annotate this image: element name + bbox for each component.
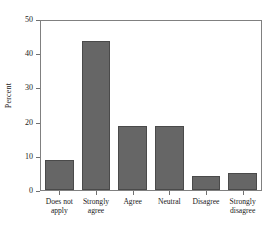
bar bbox=[192, 176, 221, 190]
bar bbox=[45, 160, 74, 190]
bar-slot bbox=[155, 21, 184, 190]
bar-slot bbox=[192, 21, 221, 190]
x-tick-label-line: disagree bbox=[218, 206, 267, 215]
bar-series bbox=[41, 21, 261, 190]
y-tick-label: 0 bbox=[29, 186, 33, 195]
y-tick-label: 30 bbox=[25, 83, 33, 92]
x-axis-ticks-and-labels: Does notapplyStronglyagreeAgreeNeutralDi… bbox=[41, 191, 261, 225]
bar bbox=[82, 41, 111, 190]
x-tick-mark bbox=[59, 191, 60, 195]
bar bbox=[155, 126, 184, 190]
bar-slot bbox=[228, 21, 257, 190]
bar bbox=[118, 126, 147, 190]
bar-slot bbox=[118, 21, 147, 190]
x-tick-mark bbox=[133, 191, 134, 195]
bar-slot bbox=[45, 21, 74, 190]
y-tick-label: 10 bbox=[25, 152, 33, 161]
y-axis-title-text: Percent bbox=[5, 83, 14, 108]
x-tick-mark bbox=[243, 191, 244, 195]
bar bbox=[228, 173, 257, 190]
y-axis-title: Percent bbox=[2, 0, 16, 191]
x-tick-mark bbox=[169, 191, 170, 195]
x-tick-mark bbox=[96, 191, 97, 195]
y-tick-label: 20 bbox=[25, 118, 33, 127]
bar-chart-figure: Percent 01020304050 Does notapplyStrongl… bbox=[0, 0, 276, 225]
y-tick-label: 50 bbox=[25, 15, 33, 24]
x-tick-label-line: Strongly bbox=[218, 197, 267, 206]
x-tick-label: Stronglydisagree bbox=[218, 197, 267, 216]
x-tick-mark bbox=[206, 191, 207, 195]
x-tick-label-line: agree bbox=[72, 206, 121, 215]
y-tick-mark bbox=[36, 191, 40, 192]
bar-slot bbox=[82, 21, 111, 190]
y-tick-label: 40 bbox=[25, 49, 33, 58]
